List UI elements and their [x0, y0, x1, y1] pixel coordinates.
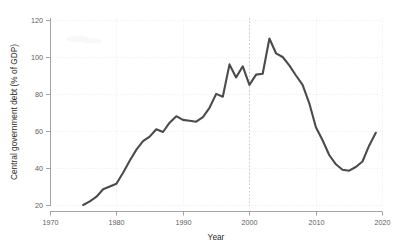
- plot-background: [50, 18, 382, 206]
- y-tick-label-40: 40: [35, 164, 43, 173]
- y-tick-label-80: 80: [35, 90, 43, 99]
- y-axis-ticks: [46, 21, 51, 206]
- y-tick-label-60: 60: [35, 127, 43, 136]
- x-tick-label-1990: 1990: [176, 218, 192, 227]
- line-chart: 120 100 80 60 40 20 1970 1980 1990 2000 …: [0, 0, 402, 246]
- x-tick-label-2020: 2020: [375, 218, 391, 227]
- x-axis-title: Year: [208, 232, 225, 242]
- y-tick-label-120: 120: [31, 16, 43, 25]
- x-tick-label-1980: 1980: [109, 218, 125, 227]
- y-axis-title: Central government debt (% of GDP): [9, 44, 19, 180]
- x-tick-label-2000: 2000: [242, 218, 258, 227]
- x-tick-label-2010: 2010: [309, 218, 325, 227]
- x-tick-label-1970: 1970: [43, 218, 59, 227]
- y-tick-label-20: 20: [35, 201, 43, 210]
- y-tick-label-100: 100: [31, 53, 43, 62]
- chart-container: 120 100 80 60 40 20 1970 1980 1990 2000 …: [0, 0, 402, 246]
- x-axis-ticks: [51, 212, 383, 216]
